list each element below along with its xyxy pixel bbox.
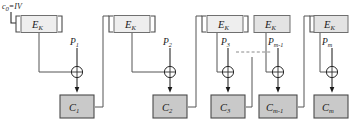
stage-2-xor-node — [164, 66, 175, 77]
stage-m-1-xor-node — [272, 66, 283, 77]
stage-2-left-bracket — [109, 16, 113, 32]
stage-2-plaintext-label: P2 — [162, 37, 172, 48]
stage-1-left-bracket — [16, 16, 20, 32]
stage-m-1-group: EK Pm-1 Cm-1 — [254, 16, 310, 119]
stage-1-plaintext-label: P1 — [69, 37, 79, 48]
cfb-mode-diagram: c0=IV EK P1 C1 — [0, 0, 350, 128]
stage-2-right-bracket — [151, 16, 155, 32]
iv-feed-wire — [11, 12, 16, 23]
stage-2-keystream-wire — [132, 33, 164, 72]
stage-m-1-feedback-wire — [298, 16, 310, 107]
iv-label: c0=IV — [2, 2, 23, 12]
stage-m-plaintext-label: Pm — [321, 37, 333, 48]
diagram-canvas: c0=IV EK P1 C1 — [0, 0, 350, 128]
stage-1-feedback-wire — [95, 16, 109, 107]
stage-1-right-bracket — [58, 16, 62, 32]
stage-1-group: EK P1 C1 — [16, 16, 109, 119]
stage-2-feedback-wire — [188, 16, 202, 107]
stage-3-left-bracket — [202, 16, 206, 32]
stage-3-right-bracket — [244, 16, 248, 32]
stage-3-feedback-wire — [246, 57, 252, 107]
stage-m-xor-node — [326, 66, 337, 77]
stage-1-keystream-wire — [39, 33, 71, 72]
stage-m-left-bracket — [310, 16, 314, 32]
stage-3-group: EK P3 C3 — [202, 16, 252, 119]
stage-m-1-plaintext-label: Pm-1 — [267, 37, 283, 48]
stage-3-plaintext-label: P3 — [220, 37, 230, 48]
stage-2-group: EK P2 C2 — [109, 16, 202, 119]
stage-3-xor-node — [222, 66, 233, 77]
stage-m-group: EK Pm Cm — [310, 16, 348, 119]
stage-1-xor-node — [71, 66, 82, 77]
